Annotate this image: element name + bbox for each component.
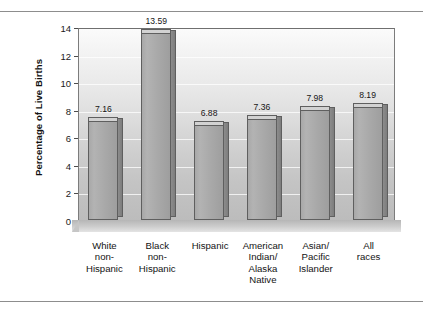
bar-side-face (277, 116, 282, 217)
bottom-divider-rule (0, 301, 423, 302)
gridline (79, 167, 394, 168)
bar[interactable] (194, 125, 224, 220)
bar-top-face (141, 29, 171, 33)
bar-value-label: 7.16 (73, 104, 133, 114)
bar-value-label: 7.36 (232, 102, 292, 112)
gridline (79, 57, 394, 58)
plot-area: 7.1613.596.887.367.988.19 (78, 28, 395, 221)
x-axis-label-line: Hispanic (120, 263, 194, 274)
bar-side-face (171, 30, 176, 217)
gridline (79, 84, 394, 85)
bar[interactable] (88, 121, 118, 220)
bar-top-face (353, 103, 383, 107)
x-axis-label-line: races (332, 251, 406, 262)
y-axis-tick-label: 4 (11, 160, 71, 171)
y-axis-tick-label: 2 (11, 188, 71, 199)
bar-column[interactable]: 7.36 (247, 27, 277, 220)
bar-column[interactable]: 7.98 (300, 27, 330, 220)
bar-top-face (88, 117, 118, 121)
bar[interactable] (353, 107, 383, 220)
bar-side-face (224, 122, 229, 217)
bar-chart-figure: Percentage of Live Births 02468101214 7.… (0, 0, 423, 309)
y-axis-tick-label: 6 (11, 133, 71, 144)
x-axis-category-label: Allraces (332, 240, 406, 263)
x-axis-label-line: All (332, 240, 406, 251)
bar-top-face (194, 121, 224, 125)
bar-value-label: 6.88 (179, 108, 239, 118)
x-axis-label-line: non- (120, 251, 194, 262)
y-axis-tick-label: 12 (11, 50, 71, 61)
bar-column[interactable]: 8.19 (353, 27, 383, 220)
gridline (79, 139, 394, 140)
bar[interactable] (300, 110, 330, 220)
gridline (79, 194, 394, 195)
y-axis-tick-label: 8 (11, 105, 71, 116)
y-axis-tick-label: 10 (11, 78, 71, 89)
bar-column[interactable]: 7.16 (88, 27, 118, 220)
bar-value-label: 13.59 (126, 16, 186, 26)
y-axis-tick-label: 14 (11, 23, 71, 34)
x-axis-label-line: Native (226, 274, 300, 285)
bar-column[interactable]: 6.88 (194, 27, 224, 220)
bar-side-face (118, 118, 123, 217)
bar-side-face (383, 104, 388, 217)
chart-floor-3d (72, 220, 401, 232)
bar[interactable] (247, 119, 277, 220)
bar-column[interactable]: 13.59 (141, 27, 171, 220)
bar-value-label: 7.98 (285, 93, 345, 103)
bar-top-face (247, 115, 277, 119)
x-axis-label-line: Islander (279, 263, 353, 274)
bar-top-face (300, 106, 330, 110)
y-axis-tick-label: 0 (11, 216, 71, 227)
bar[interactable] (141, 33, 171, 220)
bar-side-face (330, 107, 335, 217)
top-divider-rule (0, 11, 423, 12)
bar-value-label: 8.19 (338, 90, 398, 100)
